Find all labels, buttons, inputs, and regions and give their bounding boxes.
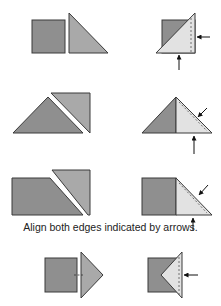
dark-square [142,178,176,215]
instruction-caption: Align both edges indicated by arrows. [0,221,221,233]
row2-right-assembled [142,97,212,154]
arrow-icon [198,108,207,117]
row4-left-pieces [45,252,103,298]
row1-left-pieces [32,13,108,53]
row4-right-assembled [148,252,198,298]
row3-left-pieces [12,170,90,215]
arrow-icon [199,185,208,195]
row1-right-assembled [156,13,210,70]
row2-left-pieces [13,93,90,133]
quilt-piecing-diagram [0,0,221,306]
light-triangle [176,178,212,215]
medium-triangle [69,13,108,53]
light-triangle [176,97,212,133]
dark-square [32,20,65,53]
dark-triangle [142,97,176,133]
dark-square [45,258,77,292]
medium-triangle [81,252,103,298]
